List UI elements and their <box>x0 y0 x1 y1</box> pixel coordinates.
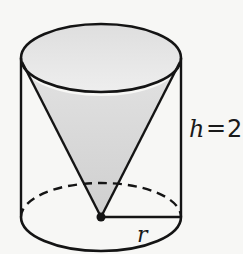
cone-in-cylinder-diagram: r h = 2 <box>0 0 243 254</box>
cylinder-top-ellipse <box>21 24 181 92</box>
cylinder-bottom-front <box>21 217 181 251</box>
height-label-equals: = <box>206 114 226 142</box>
radius-label: r <box>137 222 149 247</box>
cone-apex-point <box>97 213 106 222</box>
height-label-var: h <box>189 115 204 143</box>
height-label-value: 2 <box>227 115 242 143</box>
